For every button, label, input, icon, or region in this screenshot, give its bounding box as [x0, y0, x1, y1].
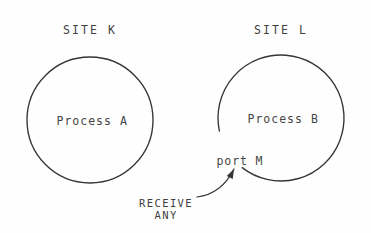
- process-b-label: Process B: [248, 113, 319, 126]
- receive-any-line-1: RECEIVE: [139, 197, 193, 209]
- process-a-label: Process A: [57, 115, 128, 128]
- receive-any-arrow-head: [227, 169, 234, 179]
- port-m-label: port M: [217, 155, 264, 168]
- receive-any-annotation: RECEIVEANY: [139, 198, 193, 222]
- site-l-title: SITE L: [254, 24, 308, 37]
- site-k-title: SITE K: [63, 24, 117, 37]
- process-diagram-figure: SITE K SITE L Process A Process B port M…: [0, 0, 371, 233]
- receive-any-arrow-shaft: [197, 169, 234, 197]
- receive-any-line-2: ANY: [139, 210, 193, 222]
